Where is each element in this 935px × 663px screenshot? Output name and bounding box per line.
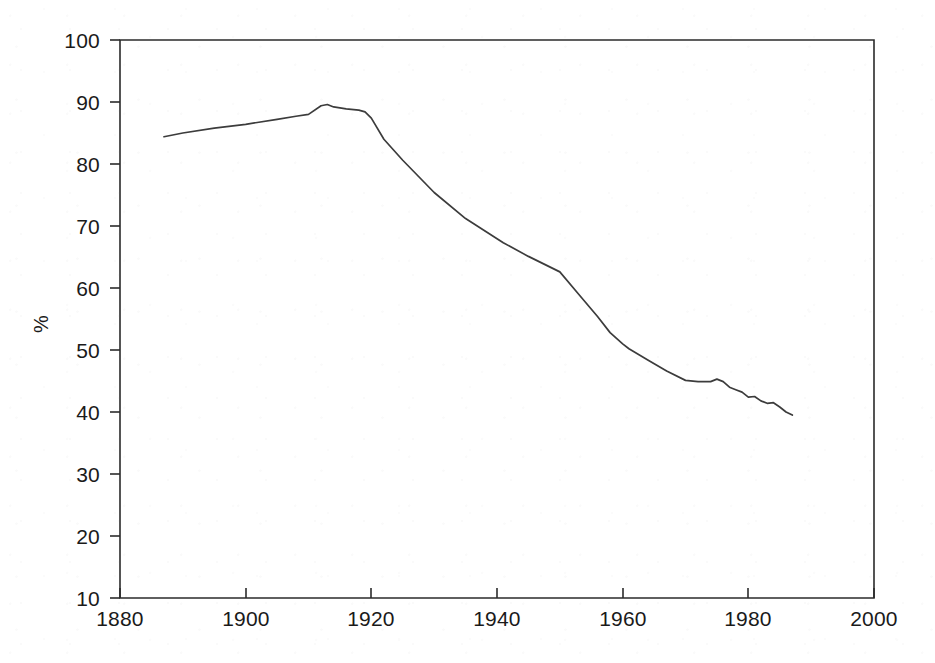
x-tick-label-1900: 1900 — [222, 607, 270, 630]
plot-frame — [120, 40, 874, 598]
x-tick-label-1980: 1980 — [724, 607, 772, 630]
y-tick-label-20: 20 — [76, 525, 100, 548]
y-tick-label-80: 80 — [76, 153, 100, 176]
y-tick-label-100: 100 — [64, 29, 100, 52]
y-axis-ticks — [110, 40, 120, 598]
y-tick-label-30: 30 — [76, 463, 100, 486]
x-tick-label-1920: 1920 — [347, 607, 395, 630]
y-tick-label-90: 90 — [76, 91, 100, 114]
y-tick-label-60: 60 — [76, 277, 100, 300]
x-axis-ticks — [120, 588, 874, 598]
y-axis-title: % — [30, 315, 52, 333]
x-tick-label-1960: 1960 — [599, 607, 647, 630]
x-tick-label-2000: 2000 — [850, 607, 898, 630]
line-chart: 100 90 80 70 60 50 40 30 20 10 % 1880 19… — [0, 0, 935, 663]
y-axis-tick-labels: 100 90 80 70 60 50 40 30 20 10 — [64, 29, 100, 610]
x-tick-label-1880: 1880 — [96, 607, 144, 630]
x-tick-label-1940: 1940 — [473, 607, 521, 630]
y-tick-label-40: 40 — [76, 401, 100, 424]
chart-page: 100 90 80 70 60 50 40 30 20 10 % 1880 19… — [0, 0, 935, 663]
x-axis-tick-labels: 1880 1900 1920 1940 1960 1980 2000 — [96, 607, 898, 630]
y-tick-label-50: 50 — [76, 339, 100, 362]
y-tick-label-70: 70 — [76, 215, 100, 238]
data-series-line — [164, 104, 792, 415]
